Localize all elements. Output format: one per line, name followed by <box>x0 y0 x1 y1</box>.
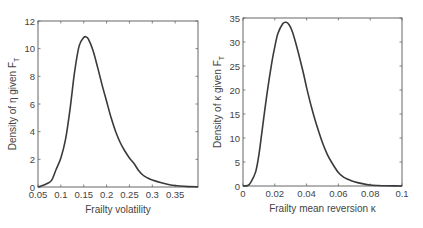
x-tick-label: 0 <box>240 188 245 199</box>
x-tick-label: 0.05 <box>29 189 48 200</box>
x-axis-label: Frailty mean reversion κ <box>269 203 377 214</box>
y-tick-label: 8 <box>30 71 35 82</box>
x-tick-label: 0.06 <box>329 188 348 199</box>
x-axis-label: Frailty volatility <box>85 204 151 215</box>
chart-frailty-volatility: 024681012 0.050.10.150.20.250.30.35 Frai… <box>7 16 198 216</box>
y-tick-label: 12 <box>24 16 35 27</box>
x-tick-label: 0.02 <box>266 188 285 199</box>
y-tick-label: 25 <box>229 61 240 72</box>
density-curve <box>38 37 198 187</box>
x-tick-label: 0.1 <box>395 188 408 199</box>
figure: 024681012 0.050.10.150.20.250.30.35 Frai… <box>0 0 423 228</box>
chart-frailty-mean-reversion: 05101520253035 00.020.040.060.080.1 Frai… <box>212 13 409 215</box>
x-tick-label: 0.15 <box>74 189 93 200</box>
density-curve <box>243 22 402 186</box>
y-axis-label: Density of η given FT <box>7 57 20 150</box>
y-axis-ticks: 05101520253035 <box>229 13 402 192</box>
plot-frame <box>243 18 402 186</box>
y-axis-label: Density of κ given FT <box>212 55 225 148</box>
y-tick-label: 30 <box>229 37 240 48</box>
x-tick-label: 0.08 <box>361 188 380 199</box>
y-tick-label: 35 <box>229 13 240 24</box>
y-axis-label-subscript: T <box>218 55 225 60</box>
x-tick-label: 0.25 <box>120 189 139 200</box>
y-tick-label: 10 <box>24 43 35 54</box>
x-tick-label: 0.35 <box>166 189 185 200</box>
y-tick-label: 2 <box>30 154 35 165</box>
y-tick-label: 5 <box>235 157 240 168</box>
y-axis-label-subscript: T <box>13 57 20 62</box>
y-axis-label-main: Density of η given F <box>7 62 18 150</box>
y-axis-ticks: 024681012 <box>24 16 198 193</box>
x-tick-label: 0.2 <box>100 189 113 200</box>
x-tick-label: 0.04 <box>297 188 316 199</box>
x-tick-label: 0.1 <box>54 189 67 200</box>
x-tick-label: 0.3 <box>146 189 159 200</box>
y-tick-label: 6 <box>30 99 35 110</box>
x-axis-ticks: 0.050.10.150.20.250.30.35 <box>29 21 185 200</box>
y-tick-label: 20 <box>229 85 240 96</box>
y-tick-label: 0 <box>235 181 240 192</box>
y-tick-label: 4 <box>30 126 35 137</box>
y-axis-label-main: Density of κ given F <box>212 60 223 148</box>
plot-frame <box>38 21 198 187</box>
y-tick-label: 15 <box>229 109 240 120</box>
y-tick-label: 10 <box>229 133 240 144</box>
